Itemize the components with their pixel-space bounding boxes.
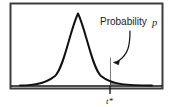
tail-probability-figure: Probability p t*: [0, 0, 176, 107]
critical-value-label: t*: [106, 96, 114, 106]
probability-label-variable: p: [151, 17, 157, 28]
probability-label-text: Probability: [100, 16, 147, 27]
distribution-diagram-svg: Probability p t*: [0, 0, 176, 107]
